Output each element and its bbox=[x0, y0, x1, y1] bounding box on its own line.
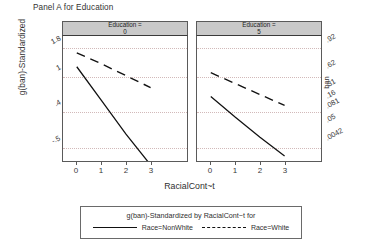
panel-header-education-0: Education = 0 bbox=[62, 21, 188, 36]
legend-swatch-dashed-icon bbox=[202, 227, 246, 228]
panel-header-education-5: Education = 5 bbox=[196, 21, 322, 36]
plot-area-education-5 bbox=[196, 36, 322, 162]
y-tick-right-0: .92 bbox=[324, 32, 337, 45]
x-tickmark bbox=[285, 162, 286, 165]
line-race-nonwhite bbox=[211, 97, 285, 157]
legend-swatch-solid-icon bbox=[93, 227, 137, 228]
x-tickmark bbox=[260, 162, 261, 165]
x-tick-0: 0 bbox=[69, 166, 83, 175]
x-tickmark bbox=[126, 162, 127, 165]
x-tick-0: 0 bbox=[203, 166, 217, 175]
x-tick-1: 1 bbox=[94, 166, 108, 175]
x-tickmark bbox=[101, 162, 102, 165]
legend-label-race-white: Race=White bbox=[251, 224, 289, 231]
legend-item-race-nonwhite: Race=NonWhite bbox=[93, 224, 193, 231]
panel-header-line2: 5 bbox=[257, 29, 261, 36]
x-tickmark bbox=[151, 162, 152, 165]
panel-education-5: Education = 5 0 1 2 3 bbox=[196, 21, 322, 162]
legend-items: Race=NonWhite Race=White bbox=[81, 224, 301, 231]
y-tick-right-5: .05 bbox=[324, 112, 337, 125]
series-lines-education-5 bbox=[197, 36, 321, 161]
panel-header-line2: 0 bbox=[123, 29, 127, 36]
x-tick-3: 3 bbox=[278, 166, 292, 175]
x-tick-3: 3 bbox=[144, 166, 158, 175]
x-tick-1: 1 bbox=[228, 166, 242, 175]
y-tick-right-1: .62 bbox=[324, 58, 337, 71]
line-race-nonwhite bbox=[77, 67, 151, 162]
x-tick-2: 2 bbox=[253, 166, 267, 175]
x-tickmark bbox=[76, 162, 77, 165]
y-tick-right-6: .0042 bbox=[324, 126, 345, 143]
line-race-white bbox=[211, 73, 285, 106]
y-tick-left-0: 1.8 bbox=[49, 34, 62, 47]
x-tickmark bbox=[210, 162, 211, 165]
y-tick-left-1: 1 bbox=[54, 63, 62, 73]
legend-label-race-nonwhite: Race=NonWhite bbox=[142, 224, 193, 231]
chart-canvas: Panel A for Education g(ban)-Standardize… bbox=[0, 0, 379, 245]
legend-item-race-white: Race=White bbox=[202, 224, 289, 231]
y-axis-right-ticks: .92 .62 .31 .16 .081 .05 .0042 bbox=[324, 0, 379, 245]
legend-title: g(ban)-Standardized by RacialCont~t for bbox=[81, 211, 301, 220]
plot-area-education-0 bbox=[62, 36, 188, 162]
series-lines-education-0 bbox=[63, 36, 187, 161]
panel-education-0: Education = 0 0 1 2 3 bbox=[62, 21, 188, 162]
y-tick-left-2: .4 bbox=[52, 98, 62, 109]
y-axis-left-ticks: 1.8 1 .4 -.5 bbox=[0, 0, 62, 245]
x-tick-2: 2 bbox=[119, 166, 133, 175]
y-tick-left-3: -.5 bbox=[50, 134, 62, 146]
x-axis-title: RacialCont~t bbox=[0, 181, 379, 191]
legend: g(ban)-Standardized by RacialCont~t for … bbox=[80, 206, 302, 239]
x-tickmark bbox=[235, 162, 236, 165]
